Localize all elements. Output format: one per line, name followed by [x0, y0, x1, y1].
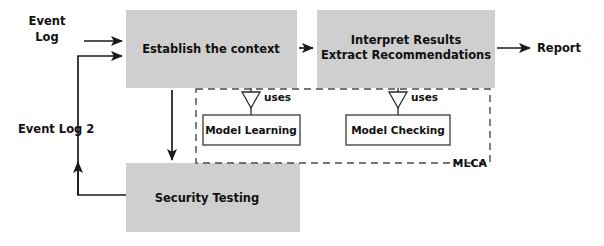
region-label-mlca: MLCA	[452, 157, 487, 170]
process-flow-diagram: Event Log Event Log 2 Establish the cont…	[0, 0, 604, 246]
input-label-event-log-line1: Event	[29, 14, 66, 28]
uses-label-model-learning: uses	[264, 91, 291, 103]
uses-triangle-model-learning	[242, 92, 260, 108]
feedback-label-event-log-2: Event Log 2	[18, 122, 94, 136]
output-label-report: Report	[537, 41, 581, 55]
process-label-interpret-results-line2: Extract Recommendations	[321, 48, 491, 62]
input-label-event-log-line2: Log	[35, 30, 58, 44]
process-label-interpret-results-line1: Interpret Results	[351, 33, 462, 47]
uses-label-model-checking: uses	[411, 91, 438, 103]
component-label-model-checking: Model Checking	[351, 124, 445, 136]
diagram-canvas: Event Log Event Log 2 Establish the cont…	[0, 0, 604, 246]
component-label-model-learning: Model Learning	[205, 124, 297, 136]
uses-triangle-model-checking	[389, 92, 407, 108]
process-label-security-testing: Security Testing	[155, 191, 260, 205]
process-label-establish-context: Establish the context	[142, 42, 280, 56]
